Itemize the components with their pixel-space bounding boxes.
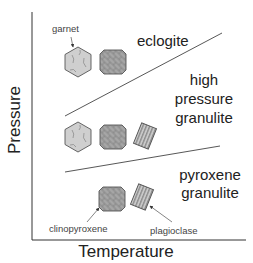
plagioclase-crystal-hp-granulite	[133, 123, 156, 149]
x-axis-label: Temperature	[78, 242, 173, 262]
px-granulite-label-line1: pyroxene	[179, 165, 241, 184]
y-axis-label: Pressure	[5, 86, 25, 154]
clinopyroxene-label-arrow	[87, 208, 99, 222]
garnet-label: garnet	[52, 23, 79, 34]
garnet-crystal-eclogite	[65, 47, 91, 77]
clinopyroxene-crystal-hp-granulite	[100, 125, 126, 149]
hp-granulite-label-line2: pressure	[175, 89, 233, 108]
clinopyroxene-crystal-eclogite	[100, 50, 126, 74]
eclogite-label: eclogite	[137, 31, 189, 50]
px-granulite-label-line2: granulite	[181, 183, 239, 202]
hp-granulite-label-line1: high	[190, 70, 218, 89]
hp-granulite-label-line3: granulite	[175, 108, 233, 127]
garnet-crystal-hp-granulite	[65, 122, 91, 152]
garnet-label-arrow	[71, 37, 73, 47]
clinopyroxene-crystal-px-granulite	[99, 187, 125, 211]
plagioclase-label-arrow	[150, 206, 172, 222]
clinopyroxene-label: clinopyroxene	[49, 223, 108, 234]
plagioclase-label: plagioclase	[150, 225, 198, 236]
